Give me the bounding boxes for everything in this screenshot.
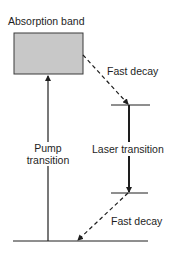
pump-label-line1: Pump [23, 142, 73, 154]
fast-decay-upper-arrow [83, 55, 128, 104]
laser-transition-label: Laser transition [92, 142, 164, 156]
absorption-band-label: Absorption band [8, 15, 84, 27]
pump-transition-label: Pump transition [23, 142, 73, 166]
fast-decay-upper-label: Fast decay [107, 65, 158, 77]
fast-decay-lower-label: Fast decay [111, 215, 162, 227]
absorption-band-box [14, 33, 83, 74]
pump-label-line2: transition [23, 154, 73, 166]
